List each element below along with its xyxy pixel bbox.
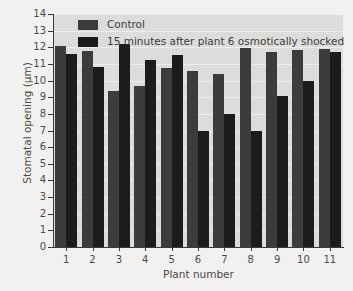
x-tick-label: 11 (315, 254, 345, 265)
x-tick-mark (224, 247, 225, 251)
y-tick-label: 6 (40, 142, 46, 152)
bar-shocked-plant-2 (93, 67, 104, 247)
y-tick-label: 13 (33, 26, 46, 36)
y-tick-mark (48, 180, 53, 181)
x-tick-mark (93, 247, 94, 251)
y-tick-label: 1 (40, 225, 46, 235)
x-tick-mark (172, 247, 173, 251)
bar-shocked-plant-7 (224, 114, 235, 247)
y-tick-mark (48, 131, 53, 132)
bar-shocked-plant-1 (66, 54, 77, 247)
legend-item-control: Control (78, 17, 344, 32)
y-tick-label: 11 (33, 59, 46, 69)
legend-item-shocked: 15 minutes after plant 6 osmotically sho… (78, 34, 344, 49)
y-tick-mark (48, 64, 53, 65)
chart-legend: Control 15 minutes after plant 6 osmotic… (78, 17, 344, 51)
x-tick-mark (119, 247, 120, 251)
bar-shocked-plant-10 (303, 81, 314, 247)
y-tick-mark (48, 14, 53, 15)
legend-label-control: Control (107, 19, 145, 30)
y-tick-mark (48, 247, 53, 248)
bar-shocked-plant-9 (277, 96, 288, 247)
y-tick-label: 2 (40, 209, 46, 219)
x-tick-mark (251, 247, 252, 251)
x-tick-mark (330, 247, 331, 251)
y-tick-mark (48, 81, 53, 82)
legend-swatch-shocked (78, 37, 98, 47)
y-tick-label: 8 (40, 109, 46, 119)
bar-control-plant-1 (55, 46, 66, 247)
y-tick-mark (48, 164, 53, 165)
y-tick-label: 14 (33, 9, 46, 19)
y-tick-label: 12 (33, 42, 46, 52)
x-tick-mark (303, 247, 304, 251)
bar-control-plant-7 (213, 74, 224, 247)
y-tick-label: 0 (40, 242, 46, 252)
y-tick-mark (48, 114, 53, 115)
y-tick-mark (48, 147, 53, 148)
bar-control-plant-3 (108, 91, 119, 247)
y-axis-title: Stomatal opening (µm) (21, 33, 33, 213)
y-tick-mark (48, 31, 53, 32)
bar-control-plant-6 (187, 71, 198, 247)
bar-shocked-plant-11 (330, 52, 341, 247)
bar-control-plant-11 (319, 49, 330, 247)
bar-shocked-plant-8 (251, 131, 262, 247)
bar-chart-figure: Control 15 minutes after plant 6 osmotic… (0, 0, 353, 291)
bar-shocked-plant-3 (119, 44, 130, 247)
bar-control-plant-8 (240, 48, 251, 247)
y-tick-mark (48, 214, 53, 215)
y-tick-label: 10 (33, 76, 46, 86)
bar-control-plant-10 (292, 50, 303, 247)
y-tick-label: 7 (40, 126, 46, 136)
y-tick-mark (48, 197, 53, 198)
bar-control-plant-5 (161, 68, 172, 247)
x-tick-mark (198, 247, 199, 251)
y-tick-label: 5 (40, 159, 46, 169)
legend-label-shocked: 15 minutes after plant 6 osmotically sho… (107, 36, 344, 47)
y-tick-mark (48, 97, 53, 98)
y-tick-label: 4 (40, 175, 46, 185)
bar-shocked-plant-6 (198, 131, 209, 248)
bar-control-plant-2 (82, 51, 93, 247)
x-axis-title: Plant number (53, 268, 344, 280)
y-tick-label: 9 (40, 92, 46, 102)
y-tick-mark (48, 47, 53, 48)
bar-control-plant-4 (134, 86, 145, 247)
bar-shocked-plant-5 (172, 55, 183, 247)
x-tick-mark (277, 247, 278, 251)
x-tick-mark (145, 247, 146, 251)
legend-swatch-control (78, 20, 98, 30)
bar-shocked-plant-4 (145, 60, 156, 247)
y-tick-mark (48, 230, 53, 231)
y-tick-label: 3 (40, 192, 46, 202)
x-tick-mark (66, 247, 67, 251)
bar-control-plant-9 (266, 52, 277, 247)
